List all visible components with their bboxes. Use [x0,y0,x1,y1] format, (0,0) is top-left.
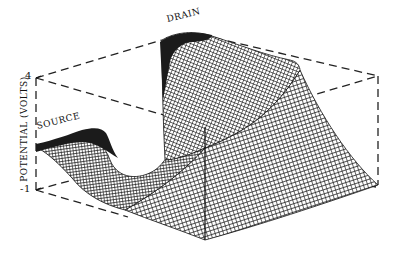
surface-plot [0,0,403,264]
z-axis-label: POTENTIAL (VOLTS) [19,69,29,189]
